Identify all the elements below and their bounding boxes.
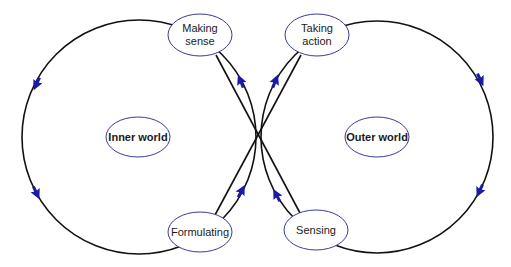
- node-making-sense-line1: Making: [182, 22, 217, 34]
- arrow-down-left-lower-icon: [29, 184, 44, 201]
- node-inner-world-label: Inner world: [108, 131, 167, 143]
- node-inner-world: Inner world: [106, 117, 170, 157]
- node-taking-action-line2: action: [302, 35, 331, 47]
- node-sensing-label: Sensing: [296, 224, 336, 236]
- node-formulating: Formulating: [168, 212, 232, 252]
- node-outer-world: Outer world: [345, 117, 409, 157]
- node-making-sense: Making sense: [168, 14, 232, 56]
- loop-diagram: Making sense Taking action Formulating S…: [0, 0, 511, 267]
- node-outer-world-label: Outer world: [346, 131, 408, 143]
- node-formulating-label: Formulating: [171, 226, 229, 238]
- arrow-up-from-sensing-icon: [269, 187, 284, 204]
- arrow-down-right-lower-icon: [472, 182, 487, 199]
- node-taking-action-line1: Taking: [301, 22, 333, 34]
- arrow-up-from-formulating-icon: [234, 183, 249, 200]
- node-making-sense-line2: sense: [185, 35, 214, 47]
- arrow-up-to-making-sense-icon: [233, 73, 248, 90]
- node-taking-action: Taking action: [285, 14, 349, 56]
- arrow-up-to-taking-action-icon: [268, 73, 283, 90]
- node-sensing: Sensing: [284, 210, 348, 250]
